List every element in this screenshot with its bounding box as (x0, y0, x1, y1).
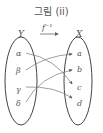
element-d: d (77, 99, 82, 108)
element-b: b (77, 65, 82, 74)
arrow-alpha-to-c (26, 53, 72, 84)
function-label: f⁻¹ (41, 23, 52, 32)
element-delta: δ (16, 99, 21, 108)
set-y-label: Y (18, 29, 25, 39)
set-x-label: X (75, 29, 83, 39)
element-alpha: α (16, 49, 22, 58)
element-c: c (77, 83, 82, 92)
mapping-diagram: f⁻¹ Y α β γ δ X a b c d (0, 0, 103, 133)
element-gamma: γ (16, 85, 21, 94)
element-beta: β (15, 66, 21, 75)
element-a: a (77, 49, 82, 58)
